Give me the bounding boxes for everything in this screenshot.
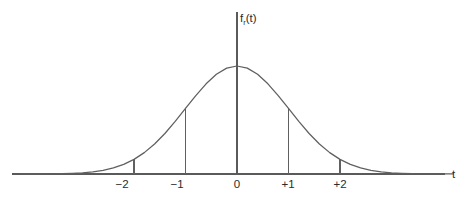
- x-tick-label-4: +2: [333, 178, 346, 190]
- x-tick-label-1: −1: [170, 178, 183, 190]
- x-tick-label-2: 0: [234, 178, 240, 190]
- x-axis-label: t: [452, 168, 456, 180]
- y-axis-label: fr(t): [240, 12, 257, 27]
- density-plot-svg: −2−10+1+2 t fr(t): [0, 0, 476, 206]
- figure-root: −2−10+1+2 t fr(t): [0, 0, 476, 206]
- y-axis-label-arg: (t): [246, 12, 257, 24]
- x-tick-label-0: −2: [115, 178, 128, 190]
- x-tick-label-3: +1: [281, 178, 294, 190]
- x-tick-labels-group: −2−10+1+2: [115, 178, 346, 190]
